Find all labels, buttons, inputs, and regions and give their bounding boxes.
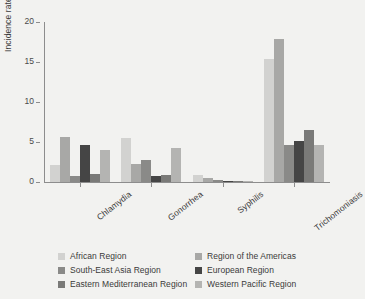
legend-swatch: [195, 267, 202, 274]
bar: [284, 145, 294, 182]
x-axis-tick-mark: [294, 183, 295, 187]
x-axis-tick-mark: [80, 183, 81, 187]
y-axis-label: Incidence rate, %: [3, 0, 13, 52]
legend-label: South-East Asia Region: [70, 265, 161, 275]
bar: [70, 176, 80, 182]
bar-group: [264, 22, 324, 182]
legend-label: European Region: [207, 265, 274, 275]
x-axis-category-label: Gonorrhea: [166, 189, 205, 222]
y-axis-tick: 10: [40, 102, 44, 103]
x-axis-tick-mark: [223, 183, 224, 187]
bar: [223, 181, 233, 182]
y-axis-tick-mark: [36, 102, 40, 103]
bar: [90, 174, 100, 182]
legend-item[interactable]: Western Pacific Region: [195, 279, 335, 289]
x-axis-tick-mark: [151, 183, 152, 187]
y-axis-tick-mark: [36, 22, 40, 23]
bar: [264, 59, 274, 182]
bar: [294, 141, 304, 182]
bar: [233, 181, 243, 182]
y-axis-tick-mark: [36, 142, 40, 143]
x-axis-line: [44, 182, 330, 183]
legend-swatch: [195, 253, 202, 260]
x-axis-category-label: Chlamydia: [94, 189, 133, 222]
y-axis-tick-label: 0: [29, 176, 34, 186]
cropped-caption-remnant: [0, 0, 347, 7]
bar: [131, 164, 141, 182]
legend-item[interactable]: South-East Asia Region: [58, 265, 195, 275]
legend-label: Region of the Americas: [207, 251, 296, 261]
bar: [50, 165, 60, 182]
bar: [60, 137, 70, 182]
bar: [171, 148, 181, 182]
bar: [193, 175, 203, 182]
legend-swatch: [58, 267, 65, 274]
bar: [121, 138, 131, 182]
legend-swatch: [58, 281, 65, 288]
legend-item[interactable]: Eastern Mediterranean Region: [58, 279, 195, 289]
bar: [100, 150, 110, 182]
plot-area: 05101520 ChlamydiaGonorrheaSyphilisTrich…: [44, 22, 330, 183]
bar: [161, 175, 171, 182]
bar: [80, 145, 90, 182]
y-axis-tick-label: 15: [25, 56, 34, 66]
legend-item[interactable]: European Region: [195, 265, 335, 275]
legend-item[interactable]: Region of the Americas: [195, 251, 335, 261]
legend-label: Eastern Mediterranean Region: [70, 279, 187, 289]
chart-legend: African RegionRegion of the AmericasSout…: [58, 249, 338, 291]
y-axis-tick-label: 20: [25, 16, 34, 26]
bar: [314, 145, 324, 182]
legend-swatch: [195, 281, 202, 288]
bar: [141, 160, 151, 182]
bar-group: [121, 22, 181, 182]
bar-group: [193, 22, 253, 182]
y-axis-tick: 5: [40, 142, 44, 143]
bar: [274, 39, 284, 182]
y-axis-tick: 0: [40, 182, 44, 183]
y-axis-tick-label: 5: [29, 136, 34, 146]
legend-label: Western Pacific Region: [207, 279, 296, 289]
y-axis-tick: 15: [40, 62, 44, 63]
bar: [203, 178, 213, 182]
y-axis-tick-mark: [36, 62, 40, 63]
legend-item[interactable]: African Region: [58, 251, 195, 261]
bar: [304, 130, 314, 182]
y-axis-tick-mark: [36, 182, 40, 183]
bar-group: [50, 22, 110, 182]
x-axis-category-label: Trichomoniasis: [313, 189, 365, 233]
bar: [213, 180, 223, 182]
x-axis-category-label: Syphilis: [235, 189, 265, 215]
legend-label: African Region: [70, 251, 126, 261]
y-axis-line: [44, 22, 45, 183]
legend-swatch: [58, 253, 65, 260]
bar: [151, 176, 161, 182]
y-axis-tick-label: 10: [25, 96, 34, 106]
bar: [243, 181, 253, 182]
y-axis-tick: 20: [40, 22, 44, 23]
